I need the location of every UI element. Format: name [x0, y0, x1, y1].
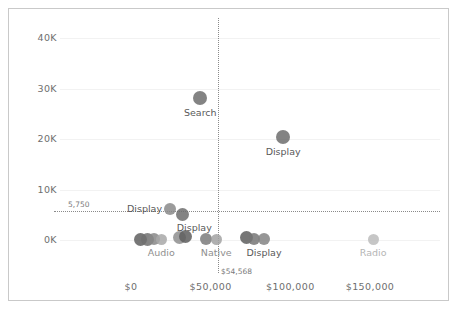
- gridline-y-30K: [60, 89, 440, 90]
- y-axis-tick-10K: 10K: [37, 184, 57, 195]
- radio-point-label: Radio: [333, 247, 413, 258]
- x-axis-tick-50000: $50,000: [171, 281, 251, 292]
- gridline-y-40K: [60, 38, 440, 39]
- display-ref-point-a[interactable]: [164, 203, 176, 215]
- radio-point[interactable]: [368, 234, 379, 245]
- x-axis-tick-150000: $150,000: [330, 281, 410, 292]
- x-axis-tick-0: $0: [91, 281, 171, 292]
- x-axis-tick-100000: $100,000: [250, 281, 330, 292]
- display-ref-point-b[interactable]: [176, 208, 189, 221]
- display-high-point[interactable]: [276, 130, 290, 144]
- y-axis-tick-20K: 20K: [37, 133, 57, 144]
- gridline-y-10K: [60, 190, 440, 191]
- display-low-point-3-label: Display: [224, 247, 304, 258]
- y-axis-tick-40K: 40K: [37, 32, 57, 43]
- reference-label-5750: 5,750: [68, 200, 89, 209]
- audio-point-4[interactable]: [156, 234, 167, 245]
- search-point-label: Search: [160, 107, 240, 118]
- display-low-point-3[interactable]: [258, 233, 270, 245]
- reference-line-horizontal: [54, 211, 440, 212]
- gridline-y-20K: [60, 139, 440, 140]
- display-ref-point-a-label: Display: [118, 203, 162, 214]
- display-high-point-label: Display: [243, 146, 323, 157]
- search-point[interactable]: [193, 91, 207, 105]
- y-axis-tick-0K: 0K: [44, 234, 57, 245]
- y-axis-tick-30K: 30K: [37, 83, 57, 94]
- native-point-2[interactable]: [179, 230, 192, 243]
- native-point-4[interactable]: [211, 234, 222, 245]
- scatter-plot: 0K10K20K30K40K$0$50,000$100,000$150,0005…: [0, 0, 458, 310]
- reference-label-54568: $54,568: [221, 267, 252, 276]
